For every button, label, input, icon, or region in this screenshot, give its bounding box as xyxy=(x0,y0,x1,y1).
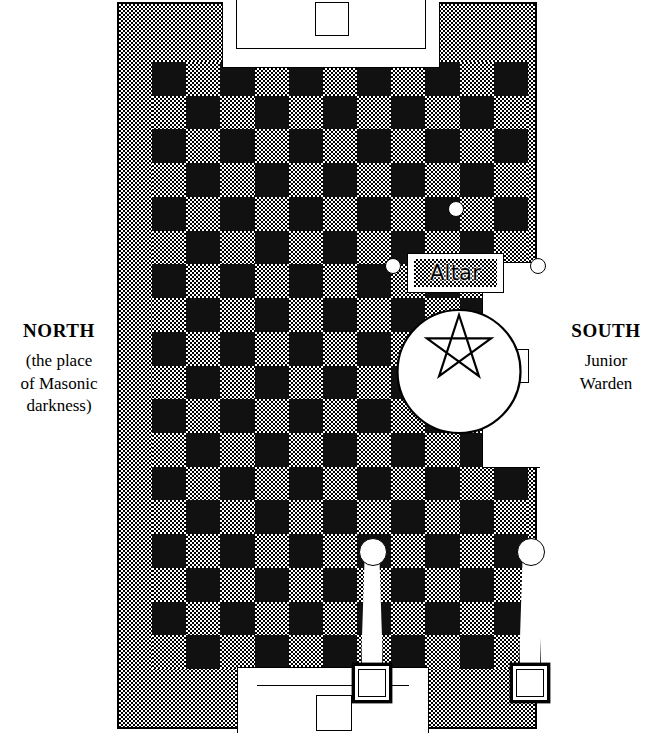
west-station-senior-warden xyxy=(237,667,429,733)
pavement-tile xyxy=(460,602,495,636)
pavement-tile xyxy=(289,568,324,602)
pavement-tile xyxy=(357,298,392,332)
pentagram-in-circle-icon xyxy=(396,307,522,436)
pavement-tile xyxy=(220,96,255,130)
pavement-tile xyxy=(186,467,221,501)
pavement-tile xyxy=(152,62,187,96)
pavement-tile xyxy=(323,197,358,231)
pavement-tile xyxy=(323,399,358,433)
pavement-tile xyxy=(289,366,324,400)
pavement-tile xyxy=(425,467,460,501)
pavement-tile xyxy=(255,602,290,636)
pavement-tile xyxy=(186,602,221,636)
pavement-tile xyxy=(425,602,460,636)
pavement-tile xyxy=(186,433,221,467)
pavement-tile xyxy=(494,129,528,163)
pavement-tile xyxy=(289,129,324,163)
pavement-tile xyxy=(255,197,290,231)
pavement-tile xyxy=(186,568,221,602)
pavement-tile xyxy=(289,163,324,197)
pavement-tile xyxy=(460,467,495,501)
south-sub-line-1: Junior xyxy=(560,350,652,372)
pavement-tile xyxy=(255,467,290,501)
pavement-tile xyxy=(323,366,358,400)
pavement-tile xyxy=(425,163,460,197)
pavement-tile xyxy=(152,602,187,636)
pavement-tile xyxy=(255,433,290,467)
east-station-seat-marker xyxy=(315,2,349,36)
pavement-tile xyxy=(220,467,255,501)
pavement-tile xyxy=(460,197,495,231)
pavement-tile xyxy=(357,366,392,400)
pavement-tile xyxy=(220,399,255,433)
pavement-tile xyxy=(220,129,255,163)
altar-label: Altar xyxy=(430,263,481,284)
pavement-tile xyxy=(255,231,290,265)
pavement-tile xyxy=(289,197,324,231)
pavement-tile xyxy=(152,298,187,332)
pavement-tile xyxy=(323,433,358,467)
pavement-tile xyxy=(152,366,187,400)
pavement-tile xyxy=(289,231,324,265)
pavement-tile xyxy=(323,298,358,332)
pavement-tile xyxy=(220,231,255,265)
pavement-tile xyxy=(494,96,528,130)
pavement-tile xyxy=(152,534,187,568)
pavement-tile xyxy=(460,163,495,197)
north-caption: NORTH (the place of Masonic darkness) xyxy=(0,318,118,417)
pavement-tile xyxy=(357,467,392,501)
pavement-tile xyxy=(391,197,426,231)
pavement-tile xyxy=(186,332,221,366)
pavement-tile xyxy=(391,568,426,602)
south-heading: SOUTH xyxy=(560,318,652,343)
north-heading: NORTH xyxy=(0,318,118,343)
pavement-tile xyxy=(152,129,187,163)
pavement-tile xyxy=(460,500,495,534)
pavement-tile xyxy=(357,399,392,433)
pavement-tile xyxy=(186,197,221,231)
pavement-tile xyxy=(289,399,324,433)
pavement-tile xyxy=(289,602,324,636)
pavement-tile xyxy=(255,332,290,366)
pavement-tile xyxy=(391,500,426,534)
pavement-tile xyxy=(391,129,426,163)
pavement-tile xyxy=(494,62,528,96)
pavement-tile xyxy=(391,467,426,501)
pavement-tile xyxy=(391,534,426,568)
north-sub-line-3: darkness) xyxy=(0,395,118,417)
pavement-tile xyxy=(255,163,290,197)
pavement-tile xyxy=(289,433,324,467)
right-pillar-globe-icon xyxy=(517,538,545,566)
pavement-tile xyxy=(186,264,221,298)
pavement-tile xyxy=(152,332,187,366)
pavement-tile xyxy=(323,332,358,366)
left-pillar-shaft xyxy=(361,560,383,668)
pavement-tile xyxy=(357,332,392,366)
pavement-tile xyxy=(186,96,221,130)
pavement-tile xyxy=(391,433,426,467)
lodge-room-outline: Altar xyxy=(117,2,537,729)
pavement-tile xyxy=(357,163,392,197)
pavement-tile xyxy=(323,534,358,568)
pavement-tile xyxy=(255,366,290,400)
pavement-tile xyxy=(220,635,255,669)
pavement-tile xyxy=(186,399,221,433)
lodge-floor-plan-diagram: NORTH (the place of Masonic darkness) SO… xyxy=(0,0,652,739)
pavement-tile xyxy=(357,500,392,534)
pavement-tile xyxy=(255,129,290,163)
pavement-tile xyxy=(494,197,528,231)
pavement-tile xyxy=(289,635,324,669)
pavement-tile xyxy=(357,433,392,467)
north-sub-line-2: of Masonic xyxy=(0,373,118,395)
pavement-tile xyxy=(255,298,290,332)
pavement-tile xyxy=(220,298,255,332)
pavement-tile xyxy=(220,568,255,602)
pavement-tile xyxy=(255,399,290,433)
pavement-tile xyxy=(220,366,255,400)
pavement-tile xyxy=(460,534,495,568)
pavement-tile xyxy=(186,129,221,163)
pavement-tile xyxy=(494,467,528,501)
pavement-tile xyxy=(152,467,187,501)
pavement-tile xyxy=(152,197,187,231)
pavement-tile xyxy=(494,163,528,197)
